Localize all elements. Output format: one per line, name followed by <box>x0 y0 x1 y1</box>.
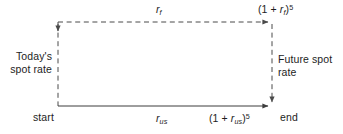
foreign-compounding-exponent: 5 <box>289 3 293 12</box>
label-us-rate: rus <box>156 112 167 128</box>
interest-rate-parity-diagram: rf (1 + rf)5 rus (1 + rus)5 start end To… <box>0 0 343 134</box>
foreign-rate-subscript: f <box>160 8 162 17</box>
label-todays-spot-rate: Today's spot rate <box>4 50 52 75</box>
label-us-compounding: (1 + rus)5 <box>209 111 250 128</box>
label-end: end <box>280 111 298 124</box>
label-foreign-compounding: (1 + rf)5 <box>258 2 293 19</box>
us-rate-subscript: us <box>160 117 168 126</box>
label-future-spot-rate: Future spot rate <box>278 53 340 78</box>
label-start: start <box>33 111 54 124</box>
foreign-compounding-prefix: (1 + <box>258 3 280 15</box>
us-compounding-exponent: 5 <box>246 112 250 121</box>
us-compounding-prefix: (1 + <box>209 112 231 124</box>
label-foreign-rate: rf <box>156 3 162 19</box>
